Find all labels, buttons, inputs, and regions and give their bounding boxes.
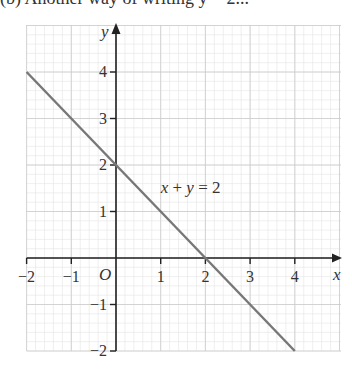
- y-tick-label: 3: [99, 110, 107, 127]
- y-axis-arrow-icon: [112, 23, 121, 34]
- y-axis-label: y: [99, 22, 109, 41]
- line-graph: −2−112344321−1−2xyOx + y = 2: [0, 0, 352, 375]
- x-tick-label: 3: [246, 268, 254, 285]
- origin-label: O: [99, 265, 111, 284]
- x-tick-label: 2: [201, 268, 209, 285]
- x-tick-label: 1: [157, 268, 165, 285]
- x-axis-label: x: [332, 265, 341, 284]
- equation-label: x + y = 2: [160, 178, 221, 197]
- y-tick-label: 2: [99, 156, 107, 173]
- x-axis-arrow-icon: [332, 254, 342, 263]
- x-tick-label: −1: [63, 268, 80, 285]
- y-tick-label: 1: [99, 203, 107, 220]
- y-tick-label: −1: [90, 296, 107, 313]
- x-tick-label: −2: [18, 268, 35, 285]
- y-tick-label: −2: [90, 342, 107, 359]
- y-tick-label: 4: [99, 63, 107, 80]
- x-tick-label: 4: [291, 268, 299, 285]
